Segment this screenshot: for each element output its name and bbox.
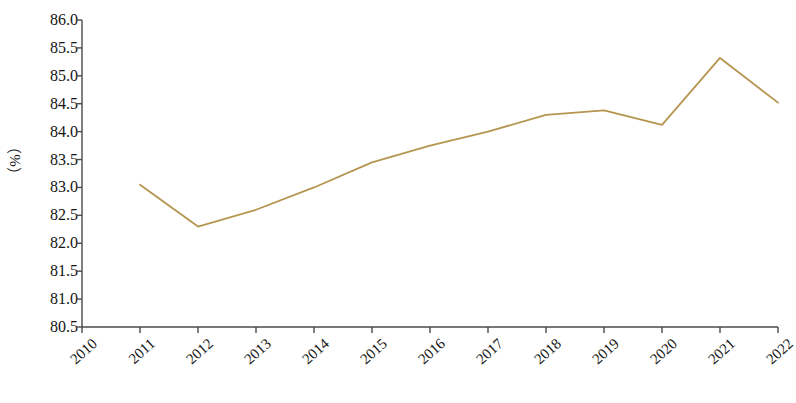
x-tick-label: 2016 bbox=[404, 336, 448, 378]
x-tick-label: 2022 bbox=[752, 336, 796, 378]
x-tick-label: 2013 bbox=[230, 336, 274, 378]
x-tick-label: 2019 bbox=[578, 336, 622, 378]
x-tick-label: 2012 bbox=[172, 336, 216, 378]
x-tick-label: 2011 bbox=[114, 336, 158, 378]
x-tick-label: 2017 bbox=[462, 336, 506, 378]
x-tick-label: 2021 bbox=[694, 336, 738, 378]
x-tick-label: 2020 bbox=[636, 336, 680, 378]
x-tick-label: 2014 bbox=[288, 336, 332, 378]
x-tick-label: 2015 bbox=[346, 336, 390, 378]
x-tick-label: 2018 bbox=[520, 336, 564, 378]
x-tick-label: 2010 bbox=[56, 336, 100, 378]
